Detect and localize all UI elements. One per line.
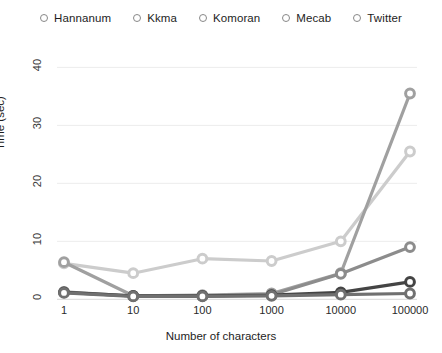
plot-area <box>57 50 417 308</box>
data-point <box>267 257 276 266</box>
y-tick-label: 40 <box>31 55 43 75</box>
data-point <box>198 254 207 263</box>
data-point <box>198 292 207 301</box>
x-tick-label: 100000 <box>380 304 440 316</box>
legend-marker-icon <box>199 14 207 22</box>
y-tick-label: 10 <box>31 229 43 249</box>
legend-label: Hannanum <box>54 12 111 24</box>
legend-label: Mecab <box>296 12 331 24</box>
legend-item-twitter[interactable]: Twitter <box>353 12 402 24</box>
data-point <box>267 291 276 300</box>
data-point <box>60 258 69 267</box>
chart-container: Hannanum Kkma Komoran Mecab Twitter 0102… <box>0 0 442 353</box>
legend-item-komoran[interactable]: Komoran <box>199 12 260 24</box>
legend-label: Kkma <box>147 12 177 24</box>
legend-item-kkma[interactable]: Kkma <box>133 12 177 24</box>
legend-marker-icon <box>353 14 361 22</box>
series-line <box>64 152 410 274</box>
data-point <box>129 292 138 301</box>
data-point <box>406 147 415 156</box>
legend-label: Komoran <box>213 12 260 24</box>
y-tick-label: 30 <box>31 113 43 133</box>
x-tick-label: 100 <box>172 304 232 316</box>
y-axis-label: Time (sec) <box>0 96 6 150</box>
x-tick-label: 10 <box>103 304 163 316</box>
legend-marker-icon <box>133 14 141 22</box>
data-point <box>336 269 345 278</box>
x-axis-label: Number of characters <box>0 330 442 342</box>
legend-item-hannanum[interactable]: Hannanum <box>40 12 111 24</box>
chart-legend: Hannanum Kkma Komoran Mecab Twitter <box>0 12 442 24</box>
data-point <box>336 237 345 246</box>
data-point <box>406 278 415 287</box>
y-tick-label: 20 <box>31 171 43 191</box>
data-point <box>336 290 345 299</box>
legend-item-mecab[interactable]: Mecab <box>282 12 331 24</box>
data-point <box>406 289 415 298</box>
legend-marker-icon <box>40 14 48 22</box>
data-point <box>406 243 415 252</box>
series-kkma <box>60 89 415 300</box>
legend-label: Twitter <box>367 12 402 24</box>
x-tick-label: 1000 <box>242 304 302 316</box>
data-point <box>60 289 69 298</box>
x-tick-label: 1 <box>34 304 94 316</box>
x-tick-label: 10000 <box>311 304 371 316</box>
plot-svg <box>57 50 417 308</box>
data-point <box>406 89 415 98</box>
legend-marker-icon <box>282 14 290 22</box>
data-point <box>129 269 138 278</box>
series-komoran <box>60 147 415 278</box>
